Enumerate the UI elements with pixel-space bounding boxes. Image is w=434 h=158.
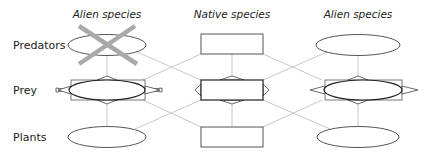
food-web-diagram: Alien species Native species Alien speci…	[0, 0, 434, 158]
native-predator-node	[201, 34, 263, 54]
arrow-up-icon	[348, 76, 368, 80]
arrow-right-icon	[402, 86, 418, 94]
arrow-left-icon	[310, 86, 325, 94]
arrow-right-icon	[263, 84, 269, 96]
column-header-native: Native species	[194, 8, 271, 20]
row-label-prey: Prey	[13, 84, 37, 97]
alien-left-prey-node	[56, 76, 162, 104]
alien-right-prey-node	[310, 76, 418, 104]
alien-right-predator-node	[316, 35, 400, 56]
arrow-left-icon	[195, 84, 201, 96]
native-prey-node	[195, 76, 269, 104]
alien-left-plant-node	[68, 127, 146, 148]
native-plant-node	[201, 127, 263, 147]
row-label-predators: Predators	[13, 39, 66, 52]
column-header-alien-right: Alien species	[323, 8, 393, 20]
alien-right-plant-node	[317, 127, 399, 148]
column-header-alien-left: Alien species	[72, 8, 142, 20]
arrow-down-icon	[348, 100, 368, 104]
row-label-plants: Plants	[13, 131, 47, 144]
